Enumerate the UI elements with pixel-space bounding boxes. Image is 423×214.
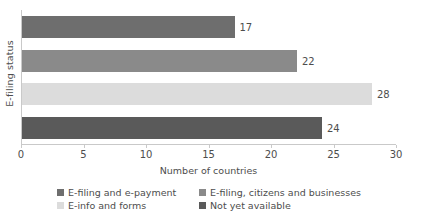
bar-3: 28 <box>22 83 372 105</box>
bar-chart: E-filing status 17222824 051015202530 Nu… <box>0 0 423 214</box>
x-tick-label: 0 <box>18 149 24 160</box>
legend-item[interactable]: E-info and forms <box>57 200 199 211</box>
legend-item[interactable]: Not yet available <box>199 200 387 211</box>
x-tick-label: 30 <box>390 149 403 160</box>
legend-label: E-filing and e-payment <box>68 187 176 198</box>
legend-label: Not yet available <box>210 200 291 211</box>
x-tick-label: 5 <box>80 149 86 160</box>
x-tick-mark <box>271 145 272 148</box>
x-tick-label: 25 <box>327 149 340 160</box>
bar-fill <box>22 83 372 105</box>
x-tick-label: 10 <box>140 149 153 160</box>
x-axis-title: Number of countries <box>21 165 396 176</box>
bar-2: 22 <box>22 50 297 72</box>
legend-label: E-filing, citizens and businesses <box>210 187 361 198</box>
legend-swatch-icon <box>57 189 64 196</box>
legend-swatch-icon <box>57 202 64 209</box>
x-tick-mark <box>334 145 335 148</box>
x-tick-mark <box>146 145 147 148</box>
legend-swatch-icon <box>199 202 206 209</box>
bar-value-label: 17 <box>240 21 253 32</box>
bar-fill <box>22 16 235 38</box>
x-tick-mark <box>21 145 22 148</box>
x-tick-label: 15 <box>202 149 215 160</box>
x-tick-mark <box>84 145 85 148</box>
x-axis-ticks: 051015202530 <box>21 145 396 161</box>
x-tick-mark <box>209 145 210 148</box>
y-axis-title-text: E-filing status <box>4 40 15 106</box>
x-tick-label: 20 <box>265 149 278 160</box>
bar-1: 17 <box>22 16 235 38</box>
legend-item[interactable]: E-filing and e-payment <box>57 187 199 198</box>
bar-value-label: 28 <box>377 89 390 100</box>
legend-label: E-info and forms <box>68 200 146 211</box>
chart-legend: E-filing and e-paymentE-filing, citizens… <box>57 186 387 212</box>
legend-swatch-icon <box>199 189 206 196</box>
x-tick-mark <box>396 145 397 148</box>
plot-area: 17222824 <box>21 10 396 145</box>
bar-4: 24 <box>22 117 322 139</box>
legend-item[interactable]: E-filing, citizens and businesses <box>199 187 387 198</box>
bar-fill <box>22 50 297 72</box>
bar-value-label: 22 <box>302 55 315 66</box>
bar-fill <box>22 117 322 139</box>
bar-value-label: 24 <box>327 123 340 134</box>
y-axis-title: E-filing status <box>0 0 18 146</box>
